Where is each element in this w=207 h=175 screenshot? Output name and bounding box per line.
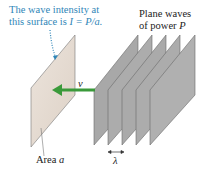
wave-planes (94, 35, 195, 145)
intensity-caption-prefix: this surface is (9, 16, 69, 27)
area-label: Area a (36, 154, 64, 165)
velocity-symbol: v (78, 78, 83, 89)
power-symbol: P (179, 20, 185, 31)
intensity-caption-line2: this surface is I = P/a. (9, 16, 102, 27)
waves-caption-line1: Plane waves (139, 8, 191, 19)
wavelength-label: λ (113, 155, 118, 166)
intensity-caption-line1: The wave intensity at (9, 4, 99, 15)
waves-caption-line2: of power P (139, 20, 186, 31)
wavelength-arrow (108, 151, 124, 154)
area-label-prefix: Area (36, 154, 59, 165)
velocity-label: v (78, 78, 83, 89)
waves-caption-prefix: of power (139, 20, 179, 31)
area-symbol: a (59, 154, 64, 165)
wavelength-symbol: λ (113, 155, 118, 166)
intensity-formula: I = P/a. (69, 16, 102, 27)
intensity-leader-line (50, 30, 55, 56)
